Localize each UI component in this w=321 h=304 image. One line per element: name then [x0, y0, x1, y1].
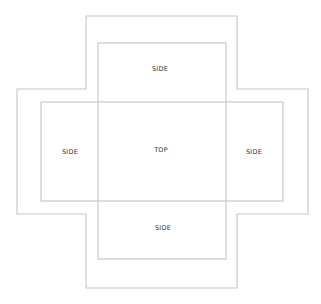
label-left-side: SIDE: [62, 148, 78, 156]
box-net-diagram: SIDE TOP SIDE SIDE SIDE: [0, 0, 321, 304]
label-bottom-side: SIDE: [155, 224, 171, 232]
label-top-side: SIDE: [152, 65, 168, 73]
label-top-face: TOP: [154, 146, 168, 154]
label-right-side: SIDE: [246, 148, 262, 156]
